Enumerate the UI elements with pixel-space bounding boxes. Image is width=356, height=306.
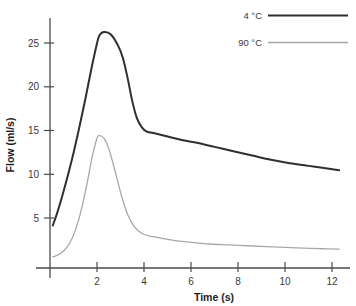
x-tick-label-2: 2: [94, 276, 100, 287]
y-axis-ticks: [44, 43, 54, 218]
y-tick-label-15: 15: [28, 125, 40, 136]
y-tick-label-20: 20: [28, 81, 40, 92]
x-tick-label-4: 4: [141, 276, 147, 287]
legend: 4 °C 90 °C: [238, 10, 348, 48]
chart-container: 25 20 15 10 5 2 4 6 8 10 12 Time (s) Flo…: [0, 0, 356, 306]
x-axis-ticks: [97, 262, 332, 272]
flow-vs-time-line-chart: 25 20 15 10 5 2 4 6 8 10 12 Time (s) Flo…: [0, 0, 356, 306]
y-axis-title: Flow (ml/s): [4, 118, 16, 173]
x-tick-label-12: 12: [326, 276, 338, 287]
legend-label-90c: 90 °C: [238, 37, 262, 48]
x-tick-label-8: 8: [235, 276, 241, 287]
y-tick-label-10: 10: [28, 169, 40, 180]
x-tick-label-6: 6: [188, 276, 194, 287]
y-tick-label-25: 25: [28, 38, 40, 49]
legend-label-4c: 4 °C: [243, 10, 262, 21]
y-tick-label-5: 5: [33, 213, 39, 224]
series-line-90c: [53, 136, 339, 257]
x-tick-label-10: 10: [279, 276, 291, 287]
x-axis-title: Time (s): [194, 291, 234, 303]
series-line-4c: [53, 32, 339, 225]
